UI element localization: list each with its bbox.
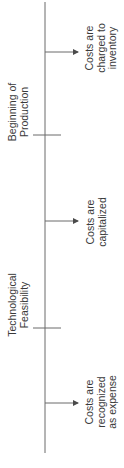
phase-label-charged-to-inventory: Costs are charged to inventory <box>84 23 119 73</box>
milestone-label-line: Beginning of <box>7 83 19 141</box>
milestone-label-line: Technological <box>7 273 19 337</box>
phase-label-line: capitalized <box>96 197 108 247</box>
milestone-label-line: Production <box>18 83 30 141</box>
phase-label-recognized-as-expense: Costs are recognized as expense <box>84 375 119 429</box>
phase-label-line: Costs are <box>84 375 96 429</box>
phase-label-line: as expense <box>107 375 119 429</box>
phase-label-line: inventory <box>107 23 119 73</box>
milestone-label-technological-feasibility: Technological Feasibility <box>7 273 30 337</box>
phase-label-line: Costs are <box>85 197 97 247</box>
milestone-label-line: Feasibility <box>18 273 30 337</box>
milestone-label-beginning-of-production: Beginning of Production <box>7 83 30 141</box>
phase-label-capitalized: Costs are capitalized <box>85 197 108 247</box>
phase-label-line: Costs are <box>84 23 96 73</box>
